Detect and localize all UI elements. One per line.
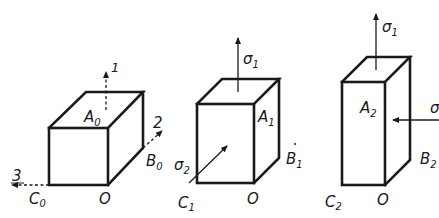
label-A1: A1 [257,108,275,128]
label-C0: C0 [29,190,46,209]
label-B0: B0 [146,152,163,172]
sigma-2-arrow [189,146,227,183]
block-stage-2-front-face [342,82,385,185]
label-A2: A2 [359,99,377,119]
label-B1: B1 [286,150,303,170]
block-stage-1-right-face [254,79,279,183]
sigma-1-label-stage-2: σ1 [382,18,398,38]
label-origin-2: O [377,191,389,209]
sigma-lateral-label: σ [430,99,439,117]
block-stage-2: σ1 σ A2 B2 C2 O [325,14,439,212]
block-initial-front-face [49,128,108,185]
axis-1-label: 1 [111,60,119,75]
label-origin-1: O [247,190,259,208]
sigma-1-label: σ1 [243,50,259,70]
label-C1: C1 [178,194,195,213]
label-B2: B2 [420,150,437,170]
block-stage-2-right-face [385,57,410,185]
label-origin-0: O [99,190,111,208]
label-A0: A0 [83,108,101,128]
axis-2-arrow [143,131,162,148]
axis-2-label: 2 [153,114,163,132]
label-B1-dot [294,143,296,145]
block-stage-1-front-face [197,104,254,183]
axis-3-label: 3 [12,167,22,185]
block-initial: 1 2 3 A0 B0 C0 O [11,60,163,209]
stress-deformation-diagram: 1 2 3 A0 B0 C0 O σ1 σ2 A1 B1 C1 O [0,0,439,218]
label-C2: C2 [325,193,342,212]
block-stage-1: σ1 σ2 A1 B1 C1 O [174,38,303,213]
sigma-2-label: σ2 [174,156,190,176]
block-initial-right-face [108,92,143,185]
